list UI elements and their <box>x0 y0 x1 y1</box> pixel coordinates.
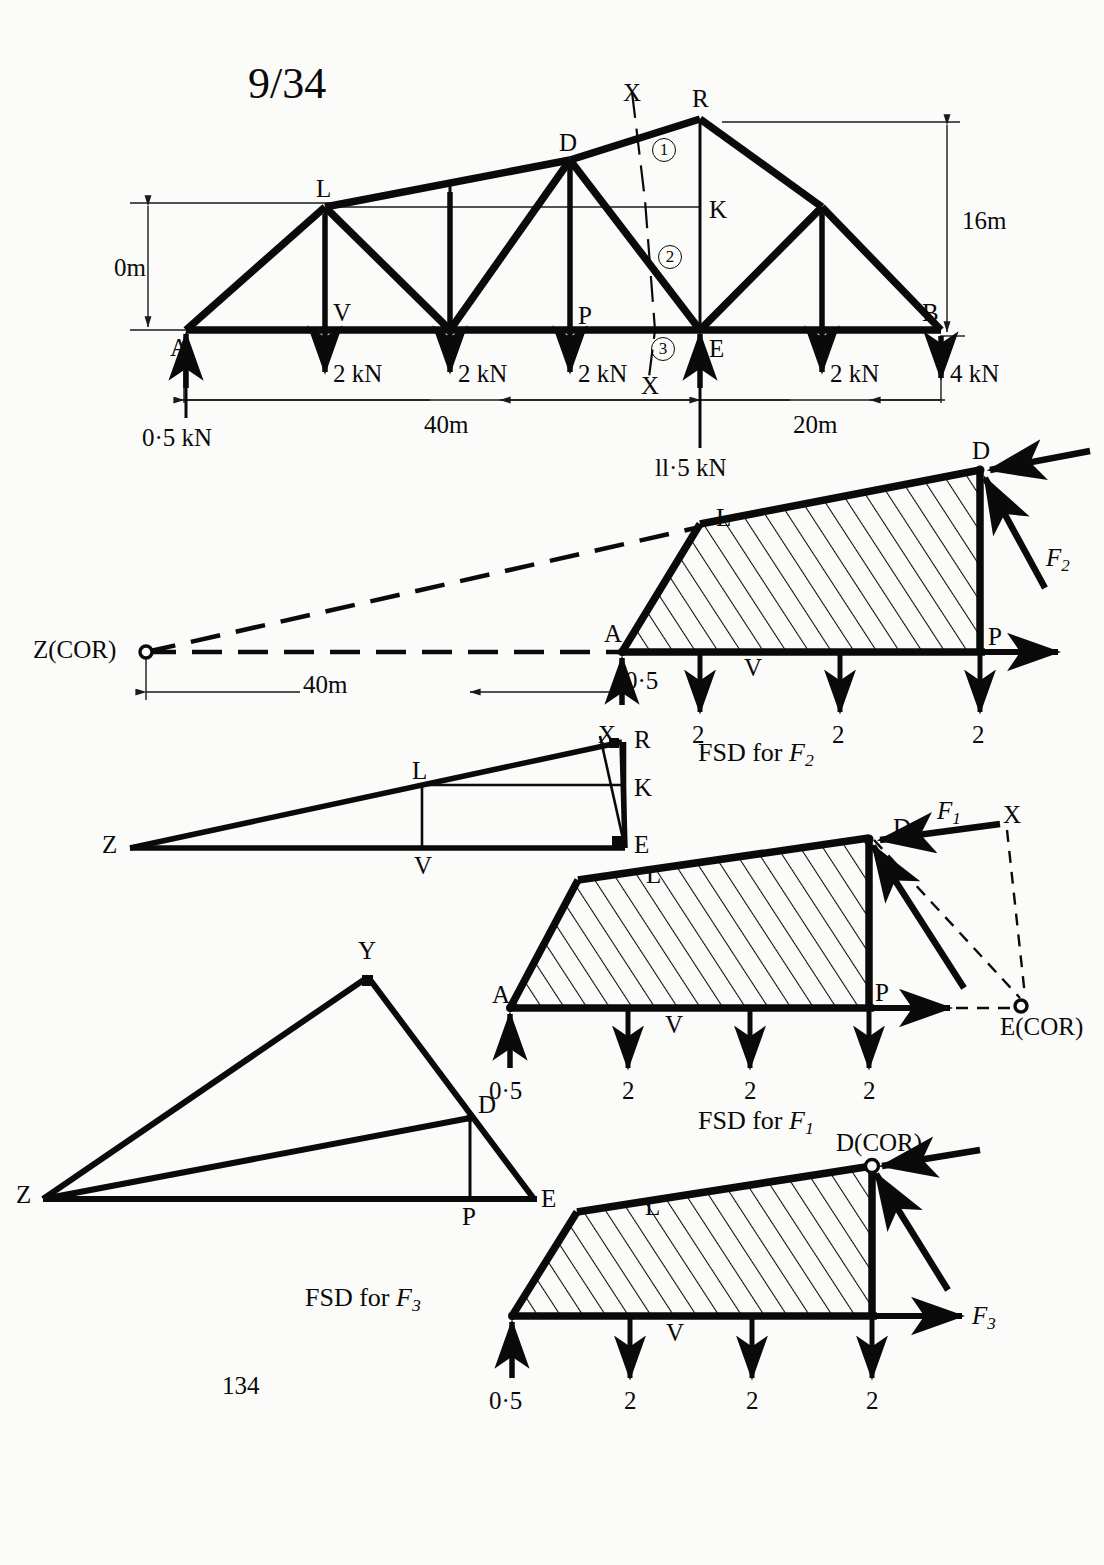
aux-zxre-node-K: K <box>634 775 652 800</box>
fsd-f2-node-a <box>618 648 626 656</box>
aux-zxre-outline <box>130 742 625 848</box>
fsd-f3-load-1: 2 <box>624 1388 637 1413</box>
truss-load-arrows <box>325 168 941 378</box>
fsd-f2-force-arrow <box>985 478 1045 588</box>
aux-zxre-node-L: L <box>412 758 427 783</box>
fsd-f2-loads <box>700 655 980 712</box>
fsd-f2-arrow-top <box>990 451 1090 470</box>
fsd-f1-node-label-D: D <box>893 815 911 840</box>
fsd-f1-load-1: 2 <box>622 1078 635 1103</box>
fsd-f1-node-d <box>865 835 874 844</box>
aux-zxre-node-X: X <box>598 722 616 747</box>
fsd-f3-force-label: F3 <box>972 1303 996 1332</box>
truss-node-E: E <box>709 336 724 361</box>
truss-dim-height-left: 0m <box>114 255 146 280</box>
fsd-f3-force-arrow <box>876 1174 948 1290</box>
fsd-f3-diagram <box>508 1150 980 1378</box>
aux-zxre-node-E: E <box>634 832 649 857</box>
truss-reaction-a: 0·5 kN <box>142 425 212 450</box>
aux-zxre-node-Z: Z <box>102 832 117 857</box>
truss-load-5: 4 kN <box>950 361 999 386</box>
fsd-f1-node-label-L: L <box>646 862 661 887</box>
fsd-f2-load-2: 2 <box>832 722 845 747</box>
aux-zyde-node-E: E <box>541 1186 556 1211</box>
aux-zyde-node-D: D <box>478 1092 496 1117</box>
truss-dim-span-right: 20m <box>793 412 837 437</box>
truss-node-L: L <box>316 176 331 201</box>
aux-zxre-node-R: R <box>634 727 651 752</box>
aux-zyde-node-P: P <box>462 1204 476 1229</box>
truss-node-P: P <box>578 303 592 328</box>
fsd-f1-cor-marker <box>1015 1000 1027 1012</box>
fsd-f2-diagram <box>140 451 1090 712</box>
fsd-f1-force-label: F1 <box>937 798 961 827</box>
aux-zxre-diagram <box>130 736 625 848</box>
page-number: 134 <box>222 1373 260 1398</box>
truss-node-A: A <box>170 335 188 360</box>
aux-zxre-right-angle-bottom <box>612 836 623 847</box>
truss-node-R: R <box>692 86 709 111</box>
fsd-f3-node-a <box>508 1312 516 1320</box>
fsd-f1-cor-label: E(COR) <box>1000 1014 1083 1039</box>
fsd-f2-dimension <box>146 657 622 700</box>
truss-load-2: 2 kN <box>458 361 507 386</box>
fsd-f2-node-label-D: D <box>972 438 990 463</box>
fsd-f3-load-3: 2 <box>866 1388 879 1413</box>
fsd-f2-cor-marker <box>140 646 152 658</box>
fsd-f1-resultant-arrow <box>873 846 964 988</box>
fsd-f1-node-label-A: A <box>492 982 510 1007</box>
truss-reaction-e: ll·5 kN <box>655 455 727 480</box>
fsd-f2-force-label: F2 <box>1046 545 1070 574</box>
textbook-page: 9/34 A L V D P R K E B X X 1 2 3 2 kN 2 … <box>0 0 1104 1565</box>
fsd-f2-node-label-V: V <box>744 655 762 680</box>
aux-zxre-inner <box>422 736 625 848</box>
aux-zyde-node-Y: Y <box>358 938 376 963</box>
truss-load-3: 2 kN <box>578 361 627 386</box>
fsd-f2-dim: 40m <box>303 672 347 697</box>
fsd-f3-load-2: 2 <box>746 1388 759 1413</box>
truss-node-K: K <box>709 197 727 222</box>
member-label-two: 2 <box>658 245 682 269</box>
fsd-f1-node-label-P: P <box>875 980 889 1005</box>
fsd-f2-caption: FSD for F2 <box>698 740 814 770</box>
aux-zyde-right-angle <box>362 975 373 986</box>
truss-dim-height-right: 16m <box>962 208 1006 233</box>
truss-node-D: D <box>559 130 577 155</box>
truss-node-B: B <box>922 300 939 325</box>
member-label-one: 1 <box>652 138 676 162</box>
fsd-f3-cor-marker <box>866 1160 879 1173</box>
aux-zyde-node-d <box>466 1114 474 1122</box>
fsd-f2-cor-label: Z(COR) <box>33 637 116 662</box>
truss-node-V: V <box>333 300 351 325</box>
fsd-f2-node-label-P: P <box>988 624 1002 649</box>
fsd-f1-section-marker: X <box>1003 802 1021 827</box>
figure-canvas <box>0 0 1104 1565</box>
fsd-f2-load-3: 2 <box>972 722 985 747</box>
aux-zxre-node-V: V <box>414 853 432 878</box>
fsd-f1-load-2: 2 <box>744 1078 757 1103</box>
fsd-f3-node-label-V: V <box>666 1320 684 1345</box>
fsd-f2-node-d <box>976 466 985 475</box>
fsd-f1-load-3: 2 <box>863 1078 876 1103</box>
truss-load-1: 2 kN <box>333 361 382 386</box>
fsd-f1-construction-lines <box>872 830 1025 1008</box>
fsd-f3-reaction-label: 0·5 <box>489 1388 522 1413</box>
member-label-three: 3 <box>651 337 675 361</box>
fsd-f2-node-label-A: A <box>604 621 622 646</box>
fsd-f3-cor-label: D(COR) <box>836 1130 922 1155</box>
truss-diagram <box>130 92 965 448</box>
figure-number: 9/34 <box>248 62 326 106</box>
section-marker-x-bottom: X <box>641 373 659 398</box>
fsd-f1-diagram <box>506 824 1027 1068</box>
fsd-f2-node-label-L: L <box>716 505 731 530</box>
section-marker-x-top: X <box>623 80 641 105</box>
fsd-f1-node-label-V: V <box>665 1012 683 1037</box>
aux-zyde-node-Z: Z <box>16 1182 31 1207</box>
fsd-f3-caption: FSD for F3 <box>305 1285 421 1315</box>
fsd-f3-hatch <box>512 1166 872 1316</box>
fsd-f3-node-label-L: L <box>645 1194 660 1219</box>
aux-zyde-outline <box>43 977 537 1199</box>
truss-load-4: 2 kN <box>830 361 879 386</box>
fsd-f2-reaction-label: 0·5 <box>625 668 658 693</box>
truss-dim-span-left: 40m <box>424 412 468 437</box>
